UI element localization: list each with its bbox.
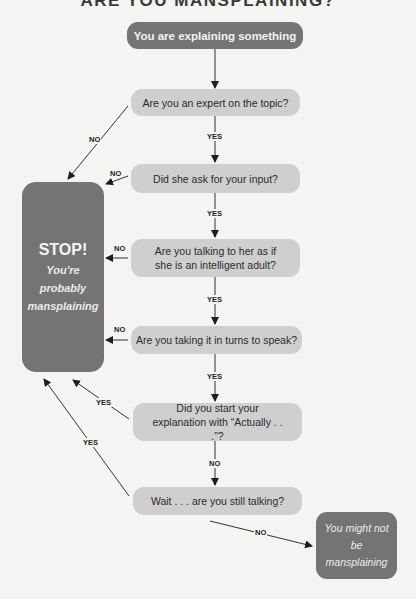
label-q1-yes: YES: [206, 132, 223, 141]
question-asked-input: Did she ask for your input?: [131, 164, 300, 193]
question-actually: Did you start your explanation with “Act…: [133, 403, 302, 441]
not-mansplaining-node: You might not be mansplaining: [316, 512, 397, 579]
label-q5-yes: YES: [95, 398, 112, 407]
label-q5-no: NO: [208, 459, 221, 468]
label-q2-yes: YES: [206, 209, 223, 218]
label-q6-no: NO: [254, 528, 267, 537]
label-q6-yes: YES: [82, 438, 99, 447]
question-taking-turns: Are you taking it in turns to speak?: [131, 326, 302, 354]
question-intelligent-adult: Are you talking to her as if she is an i…: [131, 239, 300, 277]
label-q3-yes: YES: [206, 295, 223, 304]
stop-node: STOP! You're probably mansplaining: [22, 182, 104, 372]
question-still-talking: Wait . . . are you still talking?: [133, 487, 302, 515]
label-q4-no: NO: [113, 325, 126, 334]
stop-line-1: You're: [46, 261, 79, 279]
stop-line-3: mansplaining: [28, 297, 99, 315]
stop-heading: STOP!: [39, 239, 88, 261]
stop-line-2: probably: [40, 279, 86, 297]
label-q2-no: NO: [109, 169, 122, 178]
label-q4-yes: YES: [206, 372, 223, 381]
label-q1-no: NO: [88, 135, 101, 144]
label-q3-no: NO: [113, 244, 126, 253]
question-expert: Are you an expert on the topic?: [131, 89, 300, 116]
start-node: You are explaining something: [127, 22, 303, 49]
